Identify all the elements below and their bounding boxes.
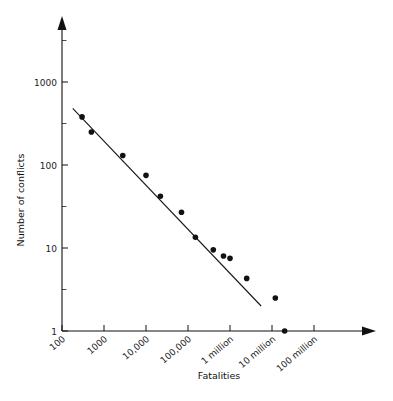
data-point <box>193 234 199 240</box>
y-axis-tick-labels: 1 10 100 1000 <box>34 78 57 337</box>
x-ticklabel-1000: 1000 <box>85 334 109 357</box>
data-point <box>227 256 233 262</box>
y-axis-ticks <box>62 41 68 332</box>
x-axis-arrow-icon <box>362 327 376 336</box>
x-ticklabel-10000: 10,000 <box>121 334 152 362</box>
x-axis <box>62 327 376 336</box>
y-ticklabel-1000: 1000 <box>34 78 57 88</box>
x-axis-tick-labels: 100 1000 10,000 100,000 1 million 10 mil… <box>48 334 320 374</box>
x-ticklabel-100: 100 <box>48 334 68 353</box>
x-ticklabel-100000: 100,000 <box>158 334 193 366</box>
data-point <box>143 173 149 179</box>
x-ticklabel-1million: 1 million <box>199 334 235 366</box>
y-axis-arrow-icon <box>58 16 67 30</box>
data-point <box>179 209 185 215</box>
y-ticklabel-10: 10 <box>46 244 58 254</box>
data-point <box>273 295 279 301</box>
data-point <box>282 328 288 334</box>
data-point <box>79 114 85 120</box>
chart-container: 1 10 100 1000 100 1000 10,000 100,000 1 … <box>0 0 393 401</box>
y-axis <box>58 16 67 331</box>
data-point <box>221 253 227 259</box>
y-ticklabel-1: 1 <box>51 327 57 337</box>
x-axis-label: Fatalities <box>198 370 240 381</box>
y-ticklabel-100: 100 <box>40 161 57 171</box>
x-axis-ticks <box>62 325 314 331</box>
y-axis-label: Number of conflicts <box>15 153 26 246</box>
data-point <box>244 276 250 282</box>
x-ticklabel-10million: 10 million <box>237 334 277 370</box>
data-point <box>120 153 126 159</box>
x-ticklabel-100million: 100 million <box>275 334 320 374</box>
data-point <box>158 193 164 199</box>
trend-line <box>73 108 261 306</box>
scatter-plot: 1 10 100 1000 100 1000 10,000 100,000 1 … <box>0 0 393 401</box>
data-point <box>210 247 216 253</box>
data-point <box>89 129 95 135</box>
